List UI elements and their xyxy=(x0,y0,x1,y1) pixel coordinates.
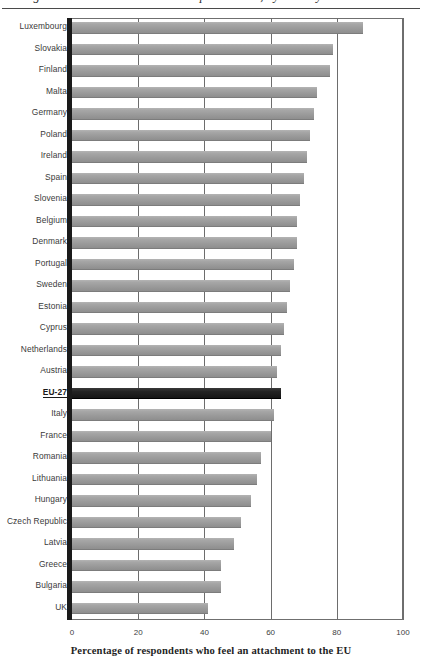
bar-row: Germany xyxy=(0,104,422,126)
bar-row: Netherlands xyxy=(0,341,422,363)
x-tick-label-20: 20 xyxy=(134,628,143,637)
x-tick-label-40: 40 xyxy=(200,628,209,637)
category-label-slovakia: Slovakia xyxy=(0,43,67,53)
category-label-france: France xyxy=(0,430,67,440)
category-label-hungary: Hungary xyxy=(0,494,67,504)
bar-row: Sweden xyxy=(0,276,422,298)
bar-row: EU-27 xyxy=(0,384,422,406)
bar-row: France xyxy=(0,427,422,449)
bar-spain xyxy=(72,173,304,185)
category-label-lithuania: Lithuania xyxy=(0,473,67,483)
category-label-finland: Finland xyxy=(0,64,67,74)
x-tick-label-80: 80 xyxy=(332,628,341,637)
category-label-uk: UK xyxy=(0,602,67,612)
bar-italy xyxy=(72,409,274,421)
bar-row: Slovakia xyxy=(0,40,422,62)
bar-malta xyxy=(72,87,317,99)
bar-row: Denmark xyxy=(0,233,422,255)
bar-finland xyxy=(72,65,330,77)
x-tick-label-100: 100 xyxy=(396,628,409,637)
bar-cyprus xyxy=(72,323,284,335)
category-label-belgium: Belgium xyxy=(0,215,67,225)
bar-row: Romania xyxy=(0,448,422,470)
bar-luxembourg xyxy=(72,22,363,34)
category-label-italy: Italy xyxy=(0,408,67,418)
bar-eu-27 xyxy=(72,388,281,400)
bar-poland xyxy=(72,130,310,142)
bar-bulgaria xyxy=(72,581,221,593)
bar-row: Latvia xyxy=(0,534,422,556)
x-axis: 020406080100 xyxy=(0,620,422,640)
bar-row: Italy xyxy=(0,405,422,427)
bar-germany xyxy=(72,108,314,120)
bar-hungary xyxy=(72,495,251,507)
bar-row: Lithuania xyxy=(0,470,422,492)
bar-row: Ireland xyxy=(0,147,422,169)
category-label-latvia: Latvia xyxy=(0,537,67,547)
category-label-cyprus: Cyprus xyxy=(0,322,67,332)
bar-uk xyxy=(72,603,208,615)
category-label-spain: Spain xyxy=(0,172,67,182)
bar-lithuania xyxy=(72,474,257,486)
bar-romania xyxy=(72,452,261,464)
category-label-eu-27: EU-27 xyxy=(43,387,67,398)
bar-portugal xyxy=(72,259,294,271)
bar-slovenia xyxy=(72,194,300,206)
bar-row: Portugal xyxy=(0,255,422,277)
bar-row: Luxembourg xyxy=(0,18,422,40)
bar-netherlands xyxy=(72,345,281,357)
bar-row: Bulgaria xyxy=(0,577,422,599)
category-label-denmark: Denmark xyxy=(0,236,67,246)
clipped-running-title-text: Figure 3.4 Attachment to the European Un… xyxy=(22,0,322,4)
bar-row: Austria xyxy=(0,362,422,384)
x-tick-label-0: 0 xyxy=(70,628,74,637)
bar-austria xyxy=(72,366,277,378)
bar-belgium xyxy=(72,216,297,228)
bar-row: Slovenia xyxy=(0,190,422,212)
category-label-romania: Romania xyxy=(0,451,67,461)
bar-row: Cyprus xyxy=(0,319,422,341)
bar-row: Belgium xyxy=(0,212,422,234)
category-label-sweden: Sweden xyxy=(0,279,67,289)
category-label-austria: Austria xyxy=(0,365,67,375)
category-label-bulgaria: Bulgaria xyxy=(0,580,67,590)
bar-sweden xyxy=(72,280,290,292)
bar-row: Hungary xyxy=(0,491,422,513)
bar-slovakia xyxy=(72,44,333,56)
bar-row: Greece xyxy=(0,556,422,578)
bar-denmark xyxy=(72,237,297,249)
bar-czech-republic xyxy=(72,517,241,529)
category-label-czech-republic: Czech Republic xyxy=(0,516,67,526)
category-label-slovenia: Slovenia xyxy=(0,193,67,203)
category-label-germany: Germany xyxy=(0,107,67,117)
x-tick-label-60: 60 xyxy=(266,628,275,637)
bar-row: UK xyxy=(0,599,422,621)
bar-france xyxy=(72,431,271,443)
bar-greece xyxy=(72,560,221,572)
bar-row: Poland xyxy=(0,126,422,148)
horizontal-rule xyxy=(2,8,420,9)
category-label-luxembourg: Luxembourg xyxy=(0,21,67,31)
category-label-ireland: Ireland xyxy=(0,150,67,160)
bar-row: Finland xyxy=(0,61,422,83)
x-axis-title: Percentage of respondents who feel an at… xyxy=(0,645,422,656)
category-label-poland: Poland xyxy=(0,129,67,139)
bar-ireland xyxy=(72,151,307,163)
category-label-greece: Greece xyxy=(0,559,67,569)
category-label-portugal: Portugal xyxy=(0,258,67,268)
category-label-netherlands: Netherlands xyxy=(0,344,67,354)
bar-rows: LuxembourgSlovakiaFinlandMaltaGermanyPol… xyxy=(0,18,422,620)
bar-row: Estonia xyxy=(0,298,422,320)
bar-estonia xyxy=(72,302,287,314)
bar-row: Spain xyxy=(0,169,422,191)
category-label-estonia: Estonia xyxy=(0,301,67,311)
bar-row: Czech Republic xyxy=(0,513,422,535)
category-label-malta: Malta xyxy=(0,86,67,96)
bar-row: Malta xyxy=(0,83,422,105)
bar-latvia xyxy=(72,538,234,550)
